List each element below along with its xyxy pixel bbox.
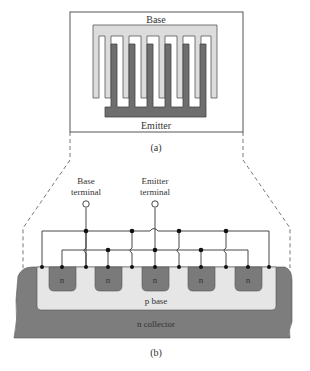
emitter-label: Emitter bbox=[141, 120, 172, 131]
n-label: n bbox=[153, 275, 158, 285]
base-terminal-label: Base bbox=[77, 176, 95, 186]
emitter-terminal-label: terminal bbox=[140, 187, 170, 197]
n-label: n bbox=[199, 275, 204, 285]
figure-b-cross-section: n n n n n p base n collector (b) bbox=[14, 176, 292, 359]
emitter-terminal-label: Emitter bbox=[142, 176, 169, 186]
figure-a-top-view: Base Emitter (a) bbox=[70, 12, 243, 154]
n-label: n bbox=[106, 275, 111, 285]
base-label: Base bbox=[146, 14, 166, 25]
n-collector-label: n collector bbox=[137, 319, 175, 329]
interconnect-wires bbox=[42, 208, 269, 267]
caption-a: (a) bbox=[150, 142, 161, 154]
p-base-label: p base bbox=[145, 296, 168, 306]
junction-dots bbox=[40, 229, 271, 269]
bjt-interdigitated-diagram: Base Emitter (a) n n n n n p base n coll… bbox=[0, 0, 310, 371]
n-label: n bbox=[60, 275, 65, 285]
emitter-terminal-node bbox=[152, 201, 158, 207]
caption-b: (b) bbox=[150, 347, 162, 359]
n-label: n bbox=[246, 275, 251, 285]
base-terminal-node bbox=[83, 201, 89, 207]
base-terminal-label: terminal bbox=[71, 187, 101, 197]
